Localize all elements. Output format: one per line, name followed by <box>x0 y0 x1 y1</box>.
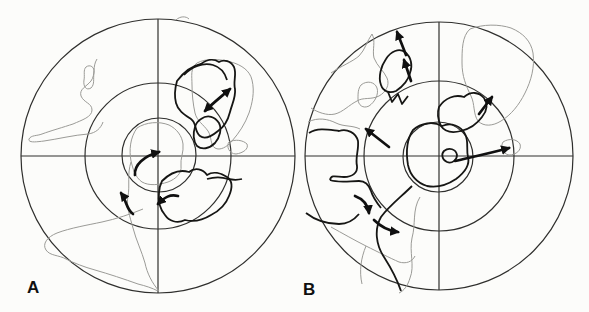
present-coastline-descending <box>361 246 366 284</box>
southamerica-rotation-arrow-1 <box>355 196 369 213</box>
reconstructed-india-fingers <box>388 92 408 104</box>
present-africa-outline <box>192 60 254 150</box>
present-southamerica-southcoast <box>331 227 415 263</box>
reconstructed-australia-spur <box>207 178 242 180</box>
present-southamerica-eastcoast <box>399 197 420 293</box>
africa-spreading-arrow <box>205 89 230 111</box>
panel-b-inner-latitude-circle <box>403 122 473 192</box>
present-madagascar-outline <box>502 140 521 155</box>
panel-a: A <box>21 17 295 297</box>
reconstructed-rift-sweep <box>377 186 412 291</box>
reconstructed-africa-margin-band <box>184 64 227 80</box>
rift-northwest-arrow <box>121 193 133 214</box>
panel-b: B <box>303 22 573 299</box>
present-island-northwest <box>358 82 378 107</box>
reconstructed-southamerica-step-edge <box>330 180 381 208</box>
australia-east-arrow <box>455 148 509 161</box>
panel-a-inner-latitude-circle <box>122 118 196 192</box>
present-coastline-rim-bump <box>176 17 189 20</box>
india-north-arrow-upper <box>397 32 406 55</box>
present-coastline-northwest <box>311 34 388 115</box>
southamerica-northwest-arrow <box>366 129 389 147</box>
australia-westward-arrow <box>158 195 178 204</box>
present-coastline-west <box>308 119 360 129</box>
panel-a-label: A <box>27 278 39 297</box>
reconstructed-africa-outline <box>175 60 235 138</box>
figure-canvas: A B <box>0 0 589 312</box>
reconstructed-southamerica-south-edge <box>306 213 359 224</box>
present-coastline-northwest <box>29 59 103 142</box>
polar-projection-figure: A B <box>0 0 589 312</box>
reconstructed-antarctica-outline <box>407 123 468 186</box>
reconstructed-southamerica-north-edge <box>309 129 358 180</box>
panel-b-label: B <box>303 280 315 299</box>
